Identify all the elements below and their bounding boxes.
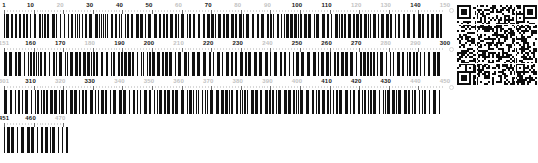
ruler-tick [16, 123, 17, 125]
barcode-bar [70, 90, 73, 114]
barcode-bar [61, 90, 64, 114]
barcode-bar [21, 127, 24, 153]
ruler-tick-label: 160 [25, 40, 36, 47]
ruler-tick [208, 86, 209, 88]
barcode-bar [414, 90, 416, 114]
ruler-tick [22, 86, 23, 88]
ruler-tick [199, 10, 200, 12]
ruler-tick [40, 123, 41, 125]
barcode-strip [0, 90, 444, 114]
ruler-tick [386, 48, 387, 50]
ruler-tick [137, 48, 138, 50]
barcode-bar [203, 52, 206, 76]
qr-module [535, 62, 537, 64]
barcode-bar [356, 52, 357, 76]
ruler-tick [54, 123, 55, 125]
ruler-tick [368, 10, 369, 12]
qr-module [523, 73, 525, 75]
qr-module [504, 40, 506, 42]
ruler-tick [31, 123, 32, 125]
qr-module [535, 32, 537, 34]
ruler-tick [72, 10, 73, 12]
ruler-tick [247, 48, 248, 50]
ruler-tick [108, 86, 109, 88]
ruler-tick [297, 10, 298, 12]
ruler-tick [294, 86, 295, 88]
barcode-bar [419, 90, 420, 114]
ruler-tick [37, 123, 38, 125]
registration-marker [449, 8, 454, 13]
ruler-tick-label: 140 [410, 2, 421, 9]
barcode-bar [239, 14, 242, 38]
barcode-bar [119, 90, 122, 114]
ruler-tick [229, 10, 230, 12]
qr-module [477, 30, 479, 32]
ruler-tick [256, 10, 257, 12]
qr-module [502, 42, 504, 44]
ruler-tick-label: 380 [233, 78, 244, 85]
ruler-tick [306, 10, 307, 12]
barcode-bar [436, 14, 439, 38]
barcode-bar [273, 14, 274, 38]
barcode-bar [202, 90, 203, 114]
qr-module [463, 46, 465, 48]
barcode-bar [93, 52, 95, 76]
ruler-tick [149, 48, 150, 50]
ruler-tick [173, 10, 174, 12]
qr-module [498, 60, 500, 62]
barcode-bar [353, 14, 355, 38]
ruler-tick [69, 86, 70, 88]
ruler-tick [439, 10, 440, 12]
ruler-tick [442, 48, 443, 50]
barcode-bar [251, 90, 254, 114]
ruler-tick [72, 48, 73, 50]
barcode-bar [211, 14, 214, 38]
barcode-bar [56, 14, 57, 38]
barcode-bar [31, 90, 32, 114]
qr-module [488, 81, 490, 83]
ruler-tick [84, 48, 85, 50]
ruler-tick-label: 420 [351, 78, 362, 85]
ruler-tick [232, 10, 233, 12]
ruler-tick-label: 290 [410, 40, 421, 47]
barcode-bar [390, 52, 391, 76]
ruler-tick [247, 86, 248, 88]
ruler-tick [208, 48, 209, 50]
barcode-bar [337, 52, 339, 76]
barcode-bar [336, 90, 338, 114]
ruler-tick [167, 86, 168, 88]
barcode-bar [169, 52, 172, 76]
qr-module [527, 83, 529, 85]
ruler-tick [28, 123, 29, 125]
ruler-tick [392, 86, 393, 88]
barcode-bar [60, 14, 61, 38]
ruler-tick [276, 48, 277, 50]
barcode-bar [25, 90, 28, 114]
qr-module [473, 32, 475, 34]
qr-module [461, 56, 463, 58]
barcode-bar [236, 90, 238, 114]
ruler-tick-label: 370 [203, 78, 214, 85]
barcode-bar [439, 90, 440, 114]
barcode-bar [52, 127, 55, 153]
ruler-tick [202, 48, 203, 50]
ruler-tick [407, 86, 408, 88]
barcode-bar [339, 90, 342, 114]
barcode-bar [163, 14, 165, 38]
ruler-tick [185, 10, 186, 12]
barcode-bar [110, 90, 111, 114]
ruler-tick [297, 48, 298, 50]
qr-module [469, 44, 471, 46]
ruler-tick-label: 460 [25, 115, 36, 122]
qr-module [480, 81, 482, 83]
barcode-bar [377, 52, 378, 76]
ruler-tick [13, 10, 14, 12]
ruler-row: 1102030405060708090100110120130140150 [0, 2, 444, 38]
barcode-bar [101, 52, 103, 76]
barcode-bar [70, 52, 73, 76]
qr-code[interactable] [457, 5, 537, 85]
barcode-strip [0, 127, 71, 153]
qr-module [527, 30, 529, 32]
barcode-bar [373, 52, 375, 76]
ruler-tick [96, 86, 97, 88]
